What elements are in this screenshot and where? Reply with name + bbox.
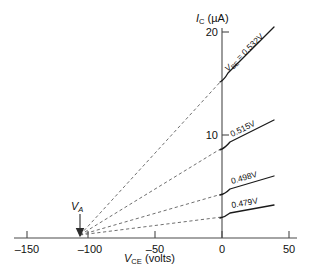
curve-label-0479V: 0.479V [231, 195, 259, 210]
extrapolation-line-0532 [80, 80, 222, 235]
x-tick-label--100: –100 [78, 243, 102, 255]
x-tick-label--50: –50 [146, 243, 164, 255]
early-voltage-chart: IC (µA) VCE (volts) 20 10 –150 –100 –50 … [0, 0, 309, 265]
va-label-sub: A [77, 205, 83, 214]
extrapolation-line-0479 [80, 217, 222, 235]
x-tick-label-0: 0 [219, 243, 225, 255]
chart-svg: IC (µA) VCE (volts) 20 10 –150 –100 –50 … [0, 0, 309, 265]
curve-label-0532V: VBE = 0.532V [222, 31, 266, 74]
y-tick-label-10: 10 [206, 129, 218, 141]
x-tick-label-50: 50 [283, 243, 295, 255]
va-arrow [77, 214, 84, 236]
va-label: VA [71, 200, 83, 214]
y-tick-label-20: 20 [206, 26, 218, 38]
curve-label-0498V: 0.498V [230, 169, 259, 186]
y-axis-title-unit: (µA) [205, 12, 229, 24]
x-ticks-group [27, 231, 289, 238]
y-ticks-group [222, 32, 229, 135]
extrapolation-line-0515 [80, 148, 222, 235]
curve-label-0532V-rest: = 0.532V [233, 31, 266, 64]
x-axis-title-sub: CE [131, 257, 142, 265]
y-axis-title: IC (µA) [196, 12, 229, 26]
axes-group [14, 28, 297, 238]
extrapolation-line-0498 [80, 194, 222, 235]
extrapolation-lines-group [80, 80, 222, 235]
x-tick-label--150: –150 [15, 243, 39, 255]
